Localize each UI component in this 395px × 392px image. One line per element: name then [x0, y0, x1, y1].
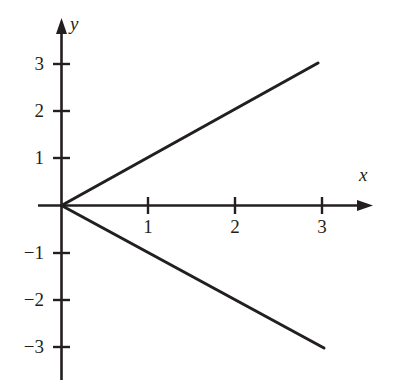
y-tick-label-minus-2: −2	[8, 290, 44, 309]
y-tick-label-1: 1	[8, 148, 44, 167]
y-axis-arrowhead-icon	[56, 18, 67, 34]
y-tick-label-3: 3	[8, 54, 44, 73]
x-tick-label-1: 1	[133, 217, 163, 236]
x-axis-arrowhead-icon	[357, 200, 373, 211]
x-axis-label: x	[359, 165, 367, 184]
x-tick-label-3: 3	[307, 217, 337, 236]
y-tick-label-minus-3: −3	[8, 337, 44, 356]
cartesian-plot	[0, 0, 395, 392]
x-tick-label-2: 2	[220, 217, 250, 236]
series-line-lower	[62, 206, 325, 349]
graph-figure: x y 3 2 1 −1 −2 −3 1 2 3	[0, 0, 395, 392]
y-axis-label: y	[70, 14, 78, 33]
y-tick-label-2: 2	[8, 101, 44, 120]
series-line-upper	[62, 63, 319, 206]
y-tick-label-minus-1: −1	[8, 243, 44, 262]
y-axis	[56, 18, 67, 380]
